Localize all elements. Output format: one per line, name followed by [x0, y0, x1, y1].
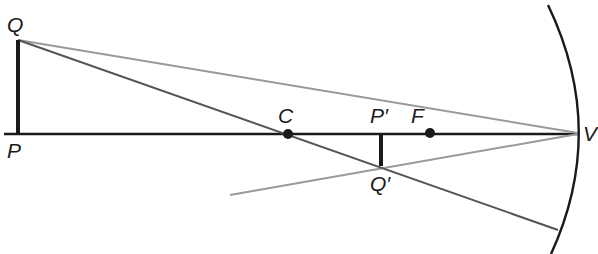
center-of-curvature-point — [283, 129, 293, 139]
label-p: P — [7, 139, 21, 162]
label-v: V — [583, 122, 598, 145]
ray-q-to-vertex — [18, 40, 578, 133]
label-f: F — [411, 104, 425, 127]
label-q-prime: Q′ — [370, 172, 391, 195]
focal-point — [425, 128, 435, 138]
label-p-prime: P′ — [370, 104, 389, 127]
label-q: Q — [7, 13, 23, 36]
label-c: C — [278, 104, 294, 127]
ray-diagram: Q P C P′ F V Q′ — [0, 0, 598, 254]
ray-vertex-reflected — [230, 134, 578, 195]
